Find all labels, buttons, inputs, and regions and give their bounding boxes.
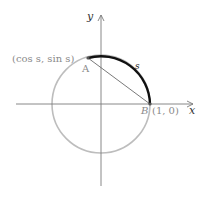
unit-circle-diagram: y x (cos s, sin s) A B (1, 0) s (0, 0, 207, 198)
point-a (86, 56, 89, 59)
point-a-coord-label: (cos s, sin s) (12, 53, 74, 64)
point-a-label: A (81, 63, 90, 74)
chord-ab (88, 58, 150, 104)
arc-length-label: s (135, 61, 140, 71)
diagram-svg: y x (cos s, sin s) A B (1, 0) s (0, 0, 207, 198)
point-b-coord-label: (1, 0) (152, 105, 179, 116)
x-axis-label: x (189, 104, 196, 117)
point-b-label: B (140, 105, 148, 116)
y-axis-label: y (86, 10, 94, 23)
